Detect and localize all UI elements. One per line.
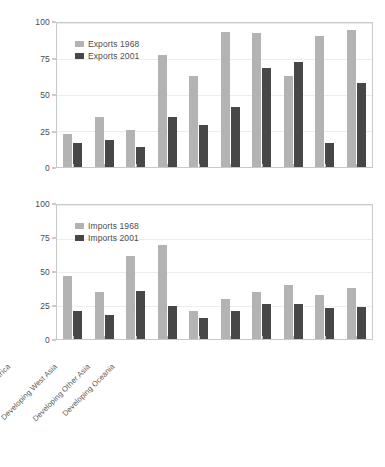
x-axis-tick-mark [120, 336, 152, 340]
x-axis-tick-mark [152, 164, 184, 168]
legend-swatch-icon [75, 223, 84, 229]
bar [357, 307, 366, 339]
x-axis-tick-mark [309, 164, 341, 168]
bar [294, 304, 303, 339]
x-axis-tick-mark [246, 336, 278, 340]
bar [262, 68, 271, 167]
bar-group [183, 23, 215, 167]
bar-group [152, 23, 184, 167]
bar [315, 36, 324, 167]
bar [63, 134, 72, 167]
imports-chart-panel: 0255075100 Imports 1968 Imports 2001 [0, 192, 385, 362]
bar [136, 291, 145, 339]
category-axis-labels: Western EuropeUSA & CanadaJapan, Austral… [56, 362, 373, 462]
bar [357, 83, 366, 167]
bar-group [246, 23, 278, 167]
imports-plot-area: Imports 1968 Imports 2001 [56, 204, 373, 340]
bar [158, 245, 167, 339]
x-axis-tick-mark [215, 164, 247, 168]
bar [95, 117, 104, 167]
exports-y-axis: 0255075100 [0, 22, 56, 168]
y-axis-tick-label: 25 [40, 127, 50, 137]
bar [221, 32, 230, 167]
bar-group [309, 205, 341, 339]
bar-group [215, 23, 247, 167]
x-axis-tick-mark [183, 164, 215, 168]
bar-group [152, 205, 184, 339]
legend-item-exports-2001: Exports 2001 [75, 51, 139, 61]
bar [252, 33, 261, 167]
bar [347, 30, 356, 167]
x-axis-tick-mark [309, 336, 341, 340]
bar [158, 55, 167, 167]
x-axis-tick-mark [152, 336, 184, 340]
legend-label: Exports 1968 [88, 39, 139, 49]
bar-group [341, 23, 373, 167]
x-axis-tick-mark [246, 164, 278, 168]
y-axis-tick-label: 50 [40, 90, 50, 100]
bar-group [246, 205, 278, 339]
bar [126, 256, 135, 339]
bar [262, 304, 271, 339]
bar [189, 76, 198, 167]
x-axis-tick-mark [341, 336, 373, 340]
legend-item-imports-1968: Imports 1968 [75, 221, 139, 231]
imports-legend: Imports 1968 Imports 2001 [75, 221, 139, 243]
exports-legend: Exports 1968 Exports 2001 [75, 39, 139, 61]
bar-group [278, 205, 310, 339]
bar [284, 285, 293, 339]
bar [231, 311, 240, 339]
imports-y-axis: 0255075100 [0, 204, 56, 340]
legend-item-imports-2001: Imports 2001 [75, 233, 139, 243]
legend-swatch-icon [75, 53, 84, 59]
legend-label: Imports 2001 [88, 233, 139, 243]
x-axis-tick-mark [89, 336, 121, 340]
bar [189, 311, 198, 339]
imports-x-tick-marks [57, 336, 372, 340]
bar-group [341, 205, 373, 339]
y-axis-tick-label: 75 [40, 233, 50, 243]
x-axis-tick-mark [215, 336, 247, 340]
bar [199, 125, 208, 167]
bar [231, 107, 240, 167]
bar-group [215, 205, 247, 339]
legend-swatch-icon [75, 235, 84, 241]
y-axis-tick-label: 100 [35, 199, 50, 209]
bar [168, 117, 177, 167]
legend-label: Imports 1968 [88, 221, 139, 231]
bar [105, 140, 114, 167]
bar [95, 292, 104, 339]
bar [294, 62, 303, 167]
legend-item-exports-1968: Exports 1968 [75, 39, 139, 49]
bar [325, 308, 334, 339]
legend-label: Exports 2001 [88, 51, 139, 61]
y-axis-tick-label: 25 [40, 301, 50, 311]
x-axis-tick-mark [278, 164, 310, 168]
bar [63, 276, 72, 339]
x-axis-tick-mark [341, 164, 373, 168]
bar [221, 299, 230, 339]
x-axis-tick-mark [57, 336, 89, 340]
bar-group [309, 23, 341, 167]
y-axis-tick-label: 0 [45, 163, 50, 173]
chart-page: 0255075100 Exports 1968 Exports 2001 025… [0, 0, 385, 467]
exports-plot-area: Exports 1968 Exports 2001 [56, 22, 373, 168]
bar-group [278, 23, 310, 167]
exports-x-tick-marks [57, 164, 372, 168]
x-axis-tick-mark [278, 336, 310, 340]
bar [73, 311, 82, 339]
bar [284, 76, 293, 167]
x-axis-tick-mark [89, 164, 121, 168]
x-axis-tick-mark [183, 336, 215, 340]
bar [315, 295, 324, 339]
exports-chart-panel: 0255075100 Exports 1968 Exports 2001 [0, 10, 385, 190]
bar [252, 292, 261, 339]
y-axis-tick-label: 0 [45, 335, 50, 345]
bar-group [183, 205, 215, 339]
bar [168, 306, 177, 340]
bar [126, 130, 135, 167]
x-axis-tick-mark [57, 164, 89, 168]
y-axis-tick-label: 75 [40, 54, 50, 64]
y-axis-tick-label: 50 [40, 267, 50, 277]
y-axis-tick-label: 100 [35, 17, 50, 27]
